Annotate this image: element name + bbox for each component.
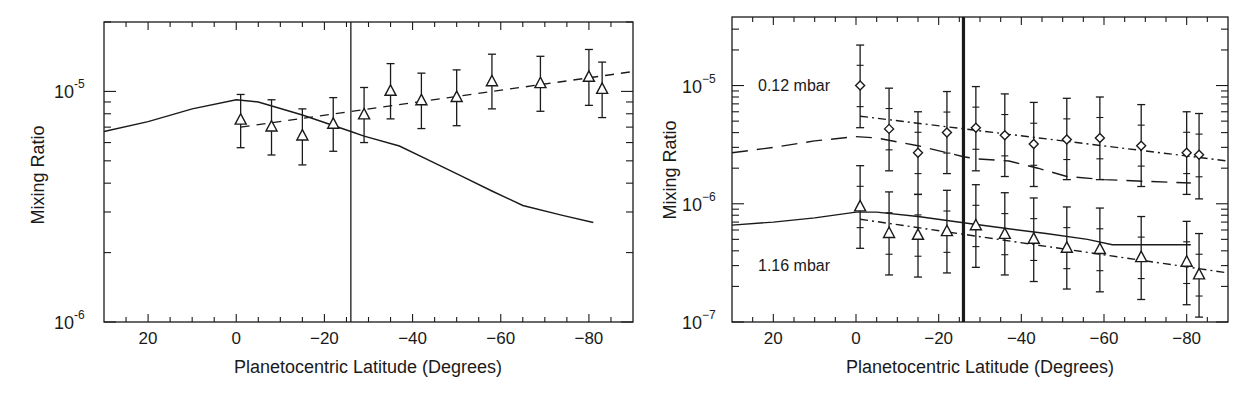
chart-canvas: 200−20−40−60−8010-510-6 200−20−40−60−801…: [0, 0, 1251, 396]
x-tick-label: 0: [851, 329, 860, 348]
y-tick-exponent: −7: [702, 308, 716, 322]
x-tick-label: −40: [1007, 329, 1036, 348]
triangle-marker: [912, 229, 923, 239]
plot-frame: [732, 17, 1228, 322]
y-tick-exponent: -6: [74, 308, 85, 322]
y-tick-label: 10: [682, 313, 702, 333]
diamond-marker: [971, 123, 980, 132]
diamond-marker: [856, 81, 865, 90]
x-tick-label: −40: [398, 329, 427, 348]
annotation-1-16-mbar: 1.16 mbar: [758, 257, 830, 275]
triangle-marker: [583, 71, 594, 81]
triangle-marker: [235, 114, 246, 124]
diamond-marker: [914, 148, 923, 157]
model-0-12-mbar-line: [732, 137, 1191, 183]
y-tick-label: 10: [54, 313, 74, 333]
diamond-marker: [1062, 135, 1071, 144]
right-y-axis-label: Mixing Ratio: [660, 120, 681, 219]
triangle-marker: [328, 118, 339, 128]
triangle-marker: [486, 75, 497, 85]
triangle-marker: [1061, 242, 1072, 252]
x-tick-label: 0: [232, 329, 241, 348]
y-tick-label: 10: [682, 77, 702, 97]
triangle-marker: [451, 91, 462, 101]
left-x-axis-label: Planetocentric Latitude (Degrees): [234, 357, 502, 378]
triangle-marker: [597, 83, 608, 93]
y-tick-exponent: −6: [702, 190, 716, 204]
y-tick-exponent: -5: [74, 77, 85, 91]
x-tick-label: −80: [574, 329, 603, 348]
y-tick-exponent: −5: [702, 72, 716, 86]
triangle-marker: [385, 85, 396, 95]
triangle-marker: [1194, 268, 1205, 278]
diamond-marker: [1029, 140, 1038, 149]
y-tick-label: 10: [54, 82, 74, 102]
x-tick-label: −80: [1172, 329, 1201, 348]
triangle-marker: [855, 200, 866, 210]
diamond-marker: [942, 128, 951, 137]
model-1-16-mbar-line: [732, 212, 1191, 245]
triangle-marker: [1028, 233, 1039, 243]
diamond-marker: [885, 124, 894, 133]
triangle-marker: [297, 130, 308, 140]
triangle-marker: [884, 227, 895, 237]
y-tick-label: 10: [682, 195, 702, 215]
triangle-marker: [535, 77, 546, 87]
x-tick-label: −20: [924, 329, 953, 348]
triangle-marker: [416, 94, 427, 104]
x-tick-label: −60: [486, 329, 515, 348]
triangle-marker: [941, 225, 952, 235]
fit-1-16-mbar-line: [860, 219, 1228, 273]
triangle-marker: [1136, 251, 1147, 261]
triangle-marker: [1181, 256, 1192, 266]
fit-line: [241, 72, 633, 128]
x-tick-label: −20: [310, 329, 339, 348]
diamond-marker: [1137, 141, 1146, 150]
x-tick-label: −60: [1090, 329, 1119, 348]
diamond-marker: [1095, 134, 1104, 143]
plot-frame: [104, 22, 633, 322]
x-tick-label: 20: [139, 329, 158, 348]
model-line: [104, 100, 593, 223]
x-tick-label: 20: [764, 329, 783, 348]
right-panel: 200−20−40−60−8010−510−610−7: [682, 17, 1228, 348]
figure: 200−20−40−60−8010-510-6 200−20−40−60−801…: [0, 0, 1251, 396]
left-y-axis-label: Mixing Ratio: [28, 125, 49, 224]
diamond-marker: [1000, 131, 1009, 140]
left-panel: 200−20−40−60−8010-510-6: [54, 22, 633, 348]
triangle-marker: [1094, 243, 1105, 253]
annotation-0-12-mbar: 0.12 mbar: [758, 77, 830, 95]
right-x-axis-label: Planetocentric Latitude (Degrees): [846, 357, 1114, 378]
triangle-marker: [999, 228, 1010, 238]
